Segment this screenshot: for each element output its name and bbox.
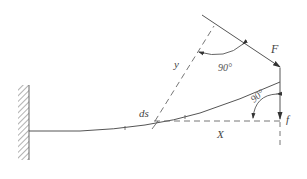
angle-arc-top: [199, 44, 243, 55]
beam-deflection-diagram: F ds y X f 90° 90°: [0, 0, 307, 179]
force-line: [202, 15, 280, 67]
force-label: F: [270, 42, 279, 56]
deflection-label: f: [286, 113, 291, 125]
ds-element-mark: [152, 121, 158, 129]
y-label: y: [173, 58, 179, 70]
wall-hatch: [18, 85, 29, 160]
fixed-wall: [18, 85, 29, 160]
angle-label-top: 90°: [218, 62, 232, 73]
beam-curve: [29, 82, 280, 131]
y-reference-dashed-line: [155, 26, 214, 121]
ds-label: ds: [139, 107, 149, 119]
x-label: X: [216, 128, 225, 140]
